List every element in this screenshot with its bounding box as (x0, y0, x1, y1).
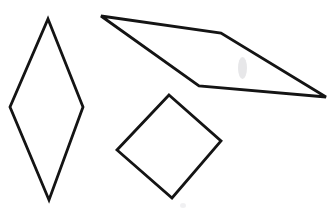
figure-background (0, 0, 334, 221)
quadrilaterals-figure: Three quadrilaterals outline figure Blac… (0, 0, 334, 221)
scan-smudge-parallelogram (238, 57, 247, 79)
figure-container: Three quadrilaterals outline figure Blac… (0, 0, 334, 221)
scan-smudge-diamond (180, 203, 186, 208)
